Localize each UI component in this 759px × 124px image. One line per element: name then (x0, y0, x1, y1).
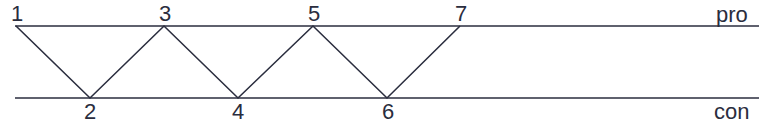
con-label: con (714, 101, 749, 123)
pro-label: pro (716, 4, 748, 26)
node-label-7: 7 (455, 3, 467, 25)
node-label-1: 1 (11, 3, 23, 25)
node-label-5: 5 (308, 3, 320, 25)
node-label-2: 2 (84, 101, 96, 123)
diagram-lines (0, 0, 759, 124)
node-label-3: 3 (159, 3, 171, 25)
node-label-6: 6 (382, 101, 394, 123)
node-label-4: 4 (232, 101, 244, 123)
pro-con-zigzag-diagram: 1 2 3 4 5 6 7 pro con (0, 0, 759, 124)
zigzag-path (16, 26, 460, 98)
